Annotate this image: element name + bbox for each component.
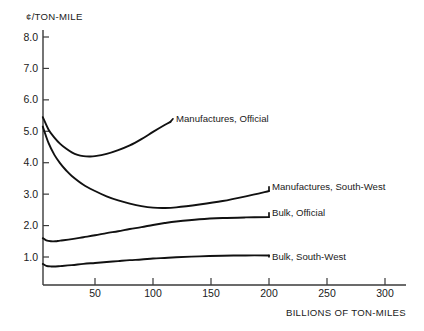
chart-container: ¢/TON-MILE 1.02.03.04.05.06.07.08.0 5010… [0,0,424,331]
y-tick-label: 3.0 [23,188,38,200]
x-tick-label: 150 [202,287,220,299]
series-line [43,217,269,241]
y-tick-label: 6.0 [23,93,38,105]
y-tick-label: 1.0 [23,251,38,263]
x-axis-ticks: 50100150200250300 [89,278,394,299]
y-tick-label: 7.0 [23,62,38,74]
y-tick-label: 8.0 [23,31,38,43]
y-tick-label: 2.0 [23,219,38,231]
series-line [43,117,171,156]
series-line [43,255,269,266]
series-labels: Manufactures, OfficialManufactures, Sout… [170,113,385,262]
x-axis-title: BILLIONS OF TON-MILES [286,307,406,318]
x-tick-label: 100 [144,287,162,299]
series-label: Manufactures, South-West [272,181,386,192]
y-axis-ticks: 1.02.03.04.05.06.07.08.0 [23,31,49,263]
x-tick-label: 200 [260,287,278,299]
y-tick-label: 5.0 [23,125,38,137]
series-label: Bulk, Official [272,207,325,218]
series-leader-line [170,119,173,122]
x-tick-label: 250 [318,287,336,299]
y-tick-label: 4.0 [23,156,38,168]
series-label: Manufactures, Official [176,113,269,124]
series-curves [43,117,269,266]
series-line [43,127,269,208]
line-chart: ¢/TON-MILE 1.02.03.04.05.06.07.08.0 5010… [0,0,424,331]
y-axis-title: ¢/TON-MILE [26,11,83,22]
x-tick-label: 50 [89,287,101,299]
x-tick-label: 300 [376,287,394,299]
series-label: Bulk, South-West [272,251,346,262]
